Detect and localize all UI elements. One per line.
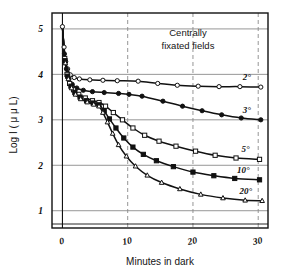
data-point-5deg <box>193 149 197 153</box>
data-point-3deg <box>180 104 184 108</box>
data-point-2deg <box>217 85 221 89</box>
data-point-3deg <box>116 91 120 95</box>
chart-canvas: 0102030 12345 2°3°5°10°20° Minutes in da… <box>0 0 284 273</box>
data-point-3deg <box>220 113 224 117</box>
series-label-5deg: 5° <box>241 144 250 154</box>
data-point-2deg <box>60 25 64 29</box>
data-point-2deg <box>115 79 119 83</box>
annotation-line-2: fixated fields <box>162 40 215 51</box>
data-point-2deg <box>101 78 105 82</box>
chart-background <box>0 0 284 273</box>
data-point-5deg <box>143 133 147 137</box>
y-tick-5: 5 <box>38 24 43 34</box>
x-axis-title: Minutes in dark <box>126 256 195 267</box>
data-point-3deg <box>259 118 263 122</box>
data-point-10deg <box>171 165 175 169</box>
data-point-3deg <box>161 99 165 103</box>
data-point-2deg <box>72 75 76 79</box>
data-point-5deg <box>234 156 238 160</box>
data-point-2deg <box>88 78 92 82</box>
data-point-3deg <box>140 94 144 98</box>
data-point-2deg <box>77 77 81 81</box>
data-point-3deg <box>127 92 131 96</box>
data-point-10deg <box>154 159 158 163</box>
y-tick-4: 4 <box>37 70 43 80</box>
data-point-3deg <box>239 116 243 120</box>
annotation-line-1: Centrally <box>169 27 207 38</box>
data-point-5deg <box>131 126 135 130</box>
data-point-3deg <box>81 88 85 92</box>
data-point-2deg <box>259 85 263 89</box>
y-tick-1: 1 <box>38 206 43 216</box>
data-point-3deg <box>62 52 66 56</box>
data-point-10deg <box>114 126 118 130</box>
data-point-5deg <box>157 139 161 143</box>
series-label-3deg: 3° <box>242 105 252 115</box>
series-label-2deg: 2° <box>242 72 252 82</box>
data-point-2deg <box>196 84 200 88</box>
data-point-2deg <box>62 45 66 49</box>
data-point-3deg <box>64 67 68 71</box>
dark-adaptation-chart: 0102030 12345 2°3°5°10°20° Minutes in da… <box>0 0 284 273</box>
data-point-3deg <box>90 90 94 94</box>
data-point-5deg <box>257 157 261 161</box>
data-point-2deg <box>136 79 140 83</box>
data-point-10deg <box>122 136 126 140</box>
data-point-10deg <box>233 176 237 180</box>
data-point-5deg <box>120 118 124 122</box>
data-point-5deg <box>103 104 107 108</box>
data-point-5deg <box>174 144 178 148</box>
data-point-10deg <box>191 170 195 174</box>
data-point-10deg <box>131 145 135 149</box>
data-point-10deg <box>141 152 145 156</box>
data-point-10deg <box>212 174 216 178</box>
y-tick-2: 2 <box>37 161 43 171</box>
y-axis-title: Log I ( μ μ L) <box>8 96 19 153</box>
data-point-2deg <box>156 81 160 85</box>
series-label-10deg: 10° <box>237 165 250 175</box>
series-label-20deg: 20° <box>239 186 253 196</box>
data-point-3deg <box>200 109 204 113</box>
y-tick-3: 3 <box>37 115 43 125</box>
data-point-2deg <box>175 83 179 87</box>
data-point-3deg <box>102 90 106 94</box>
data-point-10deg <box>257 178 261 182</box>
data-point-5deg <box>213 153 217 157</box>
data-point-5deg <box>111 110 115 114</box>
data-point-2deg <box>238 85 242 89</box>
